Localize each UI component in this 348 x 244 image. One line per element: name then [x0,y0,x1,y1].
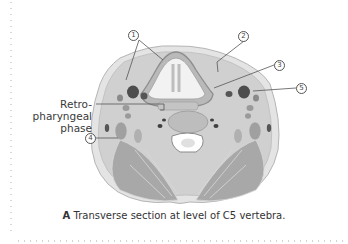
callout-5: 5 [296,83,307,94]
left-jugular-vein [127,86,139,99]
retropharyngeal-label: Retro- pharyngeal phase [33,98,92,134]
caption-letter: A [63,210,71,221]
label-line-3: phase [33,122,92,134]
sternocleidomastoid-left [115,122,127,140]
label-line-2: pharyngeal [33,110,92,122]
figure-frame: 1 2 3 4 5 Retro- pharyngeal phase A Tran… [0,0,348,244]
figure-caption: A Transverse section at level of C5 vert… [0,210,348,221]
right-jugular-vein [238,86,250,99]
callout-3: 3 [274,60,285,71]
vertebral-body [168,111,208,133]
callout-2: 2 [238,31,249,42]
callout-1: 1 [128,30,139,41]
label-line-1: Retro- [33,98,92,110]
caption-text: Transverse section at level of C5 verteb… [74,210,286,221]
callout-4: 4 [85,133,96,144]
